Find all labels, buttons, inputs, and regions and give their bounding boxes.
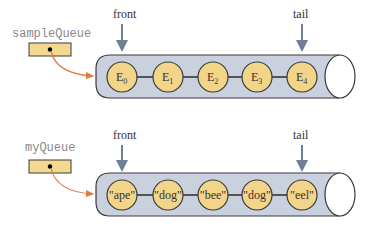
variable-name: sampleQueue (12, 27, 91, 41)
queue-node: "bee" (198, 180, 228, 210)
queue-sample: sampleQueue front tail E0 E1 E2 E3 E4 (12, 7, 355, 98)
queue-node: E2 (198, 62, 228, 92)
queue-node: E4 (287, 62, 317, 92)
front-label: front (113, 128, 137, 142)
svg-text:"eel": "eel" (290, 188, 314, 202)
queue-node: "dog" (153, 180, 183, 210)
queue-node: E0 (107, 62, 137, 92)
queue-node: "ape" (107, 180, 137, 210)
svg-text:"dog": "dog" (243, 188, 271, 202)
tail-label: tail (293, 7, 309, 21)
tube-opening (325, 55, 355, 98)
queue-node: E1 (153, 62, 183, 92)
svg-text:"dog": "dog" (154, 188, 182, 202)
svg-text:"bee": "bee" (200, 188, 227, 202)
svg-text:"ape": "ape" (109, 188, 136, 202)
queue-diagram: sampleQueue front tail E0 E1 E2 E3 E4 (0, 0, 366, 227)
queue-node: "eel" (287, 180, 317, 210)
variable-name: myQueue (25, 141, 75, 155)
queue-my: myQueue front tail "ape" "dog" "bee" "do… (25, 128, 355, 216)
queue-node: E3 (242, 62, 272, 92)
queue-node: "dog" (242, 180, 272, 210)
tail-label: tail (293, 128, 309, 142)
front-label: front (113, 7, 137, 21)
tube-opening (325, 173, 355, 216)
